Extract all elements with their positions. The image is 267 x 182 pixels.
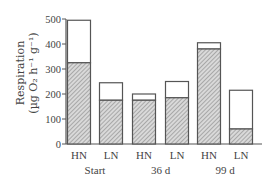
bar-upper-segment	[230, 90, 253, 129]
bar-lower-segment	[198, 49, 221, 144]
y-tick-label: 200	[45, 89, 61, 100]
category-labels: HNLNHNLNHNLNStart36 d99 d	[71, 149, 248, 176]
bar-upper-segment	[198, 43, 221, 49]
bar-lower-segment	[166, 98, 189, 144]
y-tick-label: 400	[45, 39, 61, 50]
y-tick-label: 0	[56, 139, 61, 150]
x-category-label: LN	[170, 149, 185, 161]
bar-upper-segment	[166, 82, 189, 98]
bar-lower-segment	[100, 100, 123, 144]
x-category-label: HN	[71, 149, 87, 161]
x-category-label: HN	[201, 149, 217, 161]
y-tick-label: 500	[45, 14, 61, 25]
bar-lower-segment	[133, 100, 156, 144]
bar-upper-segment	[100, 83, 123, 101]
y-tick-label: 300	[45, 64, 61, 75]
x-group-label: 99 d	[215, 164, 235, 176]
bar-lower-segment	[68, 63, 91, 144]
bars	[68, 20, 253, 144]
x-category-label: HN	[136, 149, 152, 161]
y-tick-label: 100	[45, 114, 61, 125]
x-category-label: LN	[104, 149, 119, 161]
bar-upper-segment	[68, 20, 91, 63]
x-group-label: Start	[85, 164, 106, 176]
x-group-label: 36 d	[151, 164, 171, 176]
bar-lower-segment	[230, 129, 253, 144]
respiration-bar-chart: 0100200300400500 HNLNHNLNHNLNStart36 d99…	[0, 0, 267, 182]
x-category-label: LN	[234, 149, 249, 161]
bar-upper-segment	[133, 94, 156, 100]
